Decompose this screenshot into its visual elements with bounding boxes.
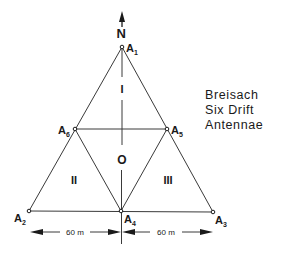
antenna-node-a1 <box>120 45 124 49</box>
arrow-right-icon <box>200 229 213 235</box>
antenna-node-a2 <box>27 209 31 213</box>
antenna-node-a5 <box>165 127 169 131</box>
title-line-2: Six Drift <box>205 103 263 118</box>
antenna-label-a6: A6 <box>58 124 70 138</box>
antenna-node-a6 <box>73 127 77 131</box>
north-arrow-icon <box>119 11 125 22</box>
diagram-canvas: N A1 A2 A3 A4 A5 A6 I O II III 60 m 60 m… <box>0 0 287 256</box>
arrow-right-icon <box>108 229 121 235</box>
antenna-label-a1: A1 <box>126 42 138 56</box>
antenna-label-a2: A2 <box>14 212 26 226</box>
edge-a6-a4 <box>75 129 121 211</box>
region-label-ii: II <box>71 174 77 186</box>
diagram-title: Breisach Six Drift Antennae <box>205 88 263 133</box>
title-line-3: Antennae <box>205 118 263 133</box>
region-label-o: O <box>117 153 126 167</box>
title-line-1: Breisach <box>205 88 263 103</box>
north-label: N <box>117 26 126 41</box>
dimension-label-left: 60 m <box>66 228 84 237</box>
antenna-label-a3: A3 <box>215 214 227 228</box>
arrow-left-icon <box>30 229 43 235</box>
region-label-iii: III <box>163 174 172 186</box>
dimension-label-right: 60 m <box>157 228 175 237</box>
region-label-i: I <box>120 83 123 95</box>
antenna-node-a4 <box>119 209 123 213</box>
antenna-label-a4: A4 <box>124 213 136 227</box>
antenna-label-a5: A5 <box>171 124 183 138</box>
edge-a5-a4 <box>121 129 167 211</box>
arrow-left-icon <box>122 229 135 235</box>
